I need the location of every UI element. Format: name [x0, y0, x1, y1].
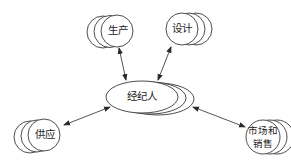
- edge-production-broker: [119, 48, 126, 80]
- node-broker: 经纪人: [106, 81, 194, 115]
- node-marketing-sales: 市场和 销售: [246, 120, 291, 154]
- edge-supply-broker: [64, 107, 110, 125]
- node-label-design: 设计: [172, 22, 193, 34]
- edge-design-broker: [158, 47, 171, 80]
- node-label-supply: 供应: [35, 128, 56, 140]
- node-design: 设计: [166, 13, 212, 45]
- node-label-marketing-line2: 销售: [253, 138, 273, 149]
- node-supply: 供应: [14, 119, 60, 153]
- node-label-production: 生产: [108, 24, 128, 36]
- edge-broker-marketing: [193, 107, 245, 127]
- node-production: 生产: [87, 15, 133, 48]
- node-label-broker: 经纪人: [127, 90, 158, 102]
- node-label-marketing-line1: 市场和: [248, 125, 278, 136]
- broker-relationship-diagram: 生产 设计 经纪人 供应 市场和 销售: [0, 0, 291, 168]
